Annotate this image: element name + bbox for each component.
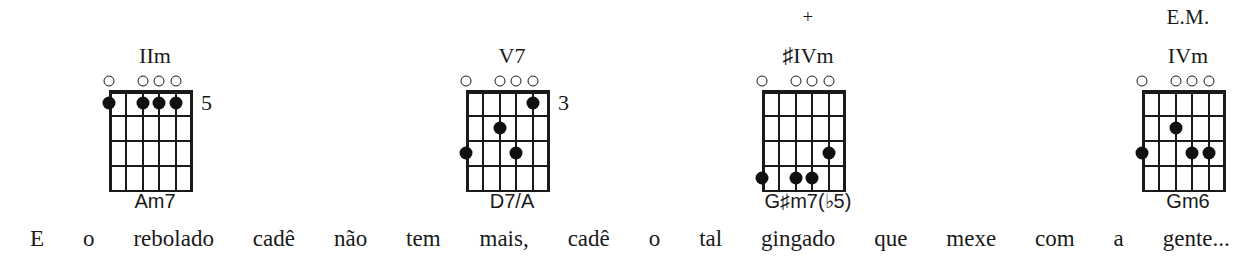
open-string-circle: [1204, 76, 1215, 87]
lyric-word: gingado: [761, 224, 835, 254]
fret-position-number: 3: [558, 92, 569, 114]
finger-dot: [1169, 121, 1182, 134]
open-string-circle: [104, 76, 115, 87]
lyric-word: rebolado: [133, 224, 213, 254]
lyric-word: E: [30, 224, 44, 254]
lyric-word: tem: [406, 224, 441, 254]
string-line: [1208, 90, 1210, 190]
finger-dot: [460, 146, 473, 159]
fret-line: [762, 165, 846, 167]
fret-line: [1142, 165, 1226, 167]
finger-dot: [756, 171, 769, 184]
open-string-circle: [790, 76, 801, 87]
open-string-circle: [154, 76, 165, 87]
lyric-word: o: [83, 224, 95, 254]
open-string-circle: [1137, 76, 1148, 87]
finger-dot: [1136, 146, 1149, 159]
chord-top-annotation: +: [708, 6, 908, 28]
finger-dot: [806, 171, 819, 184]
fretboard-grid: [466, 90, 550, 190]
chord-name-label: Gm6: [1088, 190, 1252, 212]
chord-roman-numeral: ♯IVm: [708, 44, 908, 68]
chord-diagram-4: E.M. IVm Gm6: [1088, 0, 1252, 215]
open-string-circle: [757, 76, 768, 87]
finger-dot: [103, 96, 116, 109]
open-string-circle: [1170, 76, 1181, 87]
chord-diagram-3: + ♯IVm G♯m7(♭5): [708, 0, 908, 215]
finger-dot: [1203, 146, 1216, 159]
chord-sheet: IIm Am7 5 V7 D7/A 3 + ♯IVm G♯m7(♭5) E.M.…: [0, 0, 1252, 259]
lyric-word: tal: [699, 224, 722, 254]
string-line: [499, 90, 501, 190]
fretboard-nut: [1142, 90, 1226, 94]
fretboard-grid: [762, 90, 846, 190]
finger-dot: [823, 146, 836, 159]
open-string-circle: [137, 76, 148, 87]
chord-name-label: G♯m7(♭5): [708, 190, 908, 212]
lyric-word: cadê: [253, 224, 295, 254]
chord-diagram-1: IIm Am7 5: [55, 0, 255, 215]
lyric-word: a: [1114, 224, 1124, 254]
finger-dot: [136, 96, 149, 109]
finger-dot: [510, 146, 523, 159]
string-line: [482, 90, 484, 190]
open-string-circle: [511, 76, 522, 87]
chord-name-label: Am7: [55, 190, 255, 212]
fret-line: [109, 115, 193, 117]
chord-roman-numeral: IVm: [1088, 44, 1252, 68]
fretboard-grid: [109, 90, 193, 190]
lyric-word: cadê: [568, 224, 610, 254]
string-line: [466, 90, 469, 190]
fret-line: [466, 140, 550, 142]
lyric-word: mexe: [946, 224, 996, 254]
chord-diagram-2: V7 D7/A 3: [412, 0, 612, 215]
fret-line: [762, 140, 846, 142]
open-string-circle: [824, 76, 835, 87]
string-line: [515, 90, 517, 190]
open-string-circle: [528, 76, 539, 87]
fret-position-number: 5: [201, 92, 212, 114]
fretboard-nut: [109, 90, 193, 94]
fret-line: [109, 140, 193, 142]
lyric-word: gente...: [1163, 224, 1230, 254]
string-line: [843, 90, 846, 190]
lyrics-line: Eoreboladocadênãotemmais,cadêotalgingado…: [30, 222, 1230, 256]
fretboard-grid: [1142, 90, 1226, 190]
fret-line: [1142, 140, 1226, 142]
finger-dot: [153, 96, 166, 109]
fret-line: [109, 165, 193, 167]
finger-dot: [493, 121, 506, 134]
lyric-word: mais,: [480, 224, 529, 254]
string-line: [1191, 90, 1193, 190]
lyric-word: não: [334, 224, 367, 254]
open-string-circle: [494, 76, 505, 87]
chord-name-label: D7/A: [412, 190, 612, 212]
fret-line: [762, 115, 846, 117]
string-line: [125, 90, 127, 190]
lyric-word: com: [1035, 224, 1075, 254]
chord-roman-numeral: IIm: [55, 44, 255, 68]
string-line: [828, 90, 830, 190]
string-line: [547, 90, 550, 190]
lyric-word: que: [874, 224, 907, 254]
finger-dot: [170, 96, 183, 109]
open-string-circle: [807, 76, 818, 87]
chord-top-annotation: E.M.: [1088, 6, 1252, 28]
fret-line: [466, 165, 550, 167]
open-string-circle: [461, 76, 472, 87]
string-line: [1223, 90, 1226, 190]
fret-line: [1142, 115, 1226, 117]
string-line: [190, 90, 193, 190]
finger-dot: [789, 171, 802, 184]
chord-roman-numeral: V7: [412, 44, 612, 68]
fretboard-nut: [762, 90, 846, 94]
finger-dot: [527, 96, 540, 109]
string-line: [1175, 90, 1177, 190]
string-line: [1142, 90, 1145, 190]
open-string-circle: [171, 76, 182, 87]
finger-dot: [1186, 146, 1199, 159]
string-line: [778, 90, 780, 190]
fretboard-nut: [466, 90, 550, 94]
lyric-word: o: [649, 224, 661, 254]
fret-line: [466, 115, 550, 117]
